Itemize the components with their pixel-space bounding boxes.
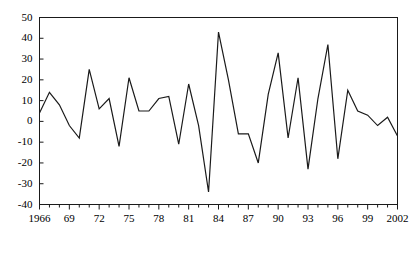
x-axis-tick-label: 2002	[378, 213, 412, 224]
y-axis-tick-label: 30	[0, 53, 33, 64]
y-axis-tick-label: -20	[0, 157, 33, 168]
y-axis-tick-label: 40	[0, 32, 33, 43]
y-axis-tick-label: 0	[0, 115, 33, 126]
y-axis-tick-label: 50	[0, 12, 33, 23]
line-chart: 50403020100-10-20-30-40 1966697275788184…	[0, 0, 412, 255]
y-axis-tick-label: -10	[0, 136, 33, 147]
y-axis-tick-label: 20	[0, 74, 33, 85]
y-axis-tick-label: -40	[0, 199, 33, 210]
y-axis-tick-label: -30	[0, 178, 33, 189]
y-axis-tick-label: 10	[0, 95, 33, 106]
